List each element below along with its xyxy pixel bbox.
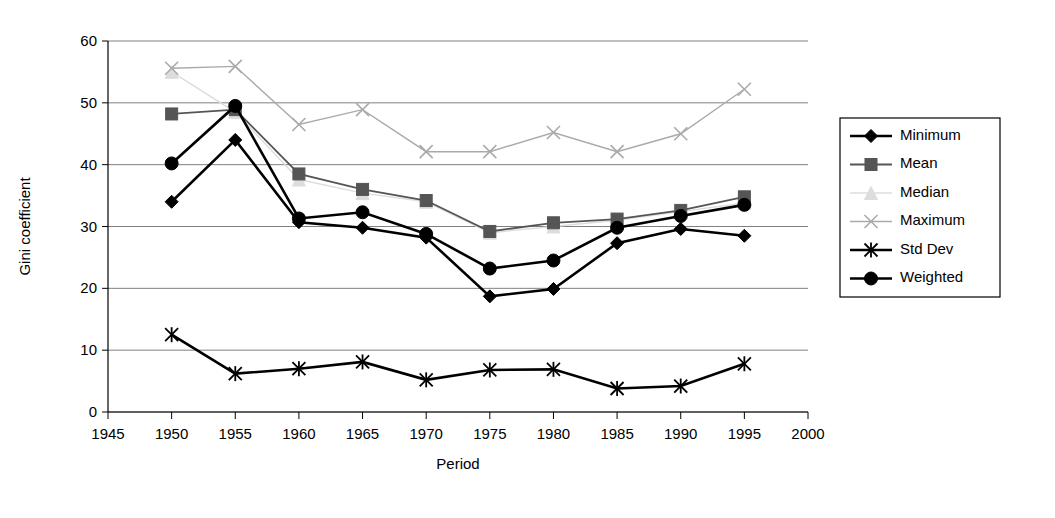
datapoint-1950	[165, 157, 178, 170]
marker-circle	[674, 209, 687, 222]
ytick-label-40: 40	[80, 156, 97, 173]
ytick-label-60: 60	[80, 32, 97, 49]
marker-diamond	[738, 229, 751, 242]
xtick-label-1950: 1950	[155, 425, 188, 442]
datapoint-1960	[292, 212, 305, 225]
datapoint-1965	[356, 221, 369, 234]
series-line	[172, 335, 745, 389]
marker-circle	[738, 198, 751, 211]
datapoint-1995	[738, 83, 751, 96]
series-maximum	[165, 60, 751, 158]
series-line	[172, 106, 745, 269]
legend-marker	[865, 159, 877, 171]
xtick-label-1970: 1970	[409, 425, 442, 442]
datapoint-1980	[547, 126, 560, 139]
datapoint-1965	[356, 206, 369, 219]
marker-square	[484, 225, 496, 237]
grid-lines: 0102030405060	[80, 32, 808, 420]
legend: MinimumMeanMedianMaximumStd DevWeighted	[840, 118, 1000, 297]
y-axis-title: Gini coefficient	[16, 177, 33, 276]
marker-circle	[611, 221, 624, 234]
xtick-label-1975: 1975	[473, 425, 506, 442]
xtick-label-1945: 1945	[91, 425, 124, 442]
marker-circle	[420, 227, 433, 240]
datapoint-1965	[356, 103, 369, 116]
xtick-label-1955: 1955	[219, 425, 252, 442]
datapoint-1985	[611, 145, 624, 158]
xtick-label-1995: 1995	[728, 425, 761, 442]
datapoint-1970	[420, 227, 433, 240]
ytick-label-50: 50	[80, 94, 97, 111]
legend-label: Std Dev	[900, 240, 954, 257]
datapoint-1965	[357, 183, 369, 195]
ytick-label-20: 20	[80, 279, 97, 296]
datapoint-1980	[547, 217, 559, 229]
datapoint-1960	[292, 118, 305, 131]
gini-coefficient-line-chart: 0102030405060194519501955196019651970197…	[0, 0, 1055, 518]
datapoint-1950	[166, 108, 178, 120]
datapoint-1990	[674, 127, 687, 140]
series-group	[165, 60, 751, 396]
datapoint-1975	[484, 225, 496, 237]
xtick-label-1965: 1965	[346, 425, 379, 442]
x-ticks: 1945195019551960196519701975198019851990…	[91, 412, 824, 442]
datapoint-1985	[611, 221, 624, 234]
marker-diamond	[674, 222, 687, 235]
datapoint-1980	[547, 254, 560, 267]
datapoint-1950	[165, 327, 178, 342]
datapoint-1995	[738, 229, 751, 242]
series-std-dev	[165, 327, 751, 396]
xtick-label-2000: 2000	[791, 425, 824, 442]
marker-square	[357, 183, 369, 195]
datapoint-1995	[738, 356, 751, 371]
ytick-label-10: 10	[80, 341, 97, 358]
legend-label: Maximum	[900, 211, 965, 228]
legend-label: Median	[900, 183, 949, 200]
series-line	[172, 140, 745, 296]
legend-label: Weighted	[900, 268, 963, 285]
datapoint-1995	[738, 198, 751, 211]
x-axis-title: Period	[436, 455, 479, 472]
marker-circle	[165, 157, 178, 170]
datapoint-1990	[674, 209, 687, 222]
ytick-label-0: 0	[89, 403, 97, 420]
xtick-label-1990: 1990	[664, 425, 697, 442]
datapoint-1955	[229, 99, 242, 112]
series-line	[172, 66, 745, 151]
ytick-label-30: 30	[80, 218, 97, 235]
marker-square	[547, 217, 559, 229]
legend-label: Minimum	[900, 126, 961, 143]
datapoint-1970	[420, 195, 432, 207]
datapoint-1960	[293, 168, 305, 180]
marker-circle	[356, 206, 369, 219]
marker-diamond	[356, 221, 369, 234]
marker-square	[166, 108, 178, 120]
marker-circle	[865, 272, 878, 285]
legend-marker	[865, 272, 878, 285]
series-weighted	[165, 99, 751, 275]
marker-circle	[547, 254, 560, 267]
marker-square	[293, 168, 305, 180]
marker-circle	[229, 99, 242, 112]
marker-circle	[483, 262, 496, 275]
marker-square	[420, 195, 432, 207]
legend-label: Mean	[900, 154, 938, 171]
chart-root: 0102030405060194519501955196019651970197…	[0, 0, 1055, 518]
marker-circle	[292, 212, 305, 225]
xtick-label-1985: 1985	[600, 425, 633, 442]
datapoint-1990	[674, 222, 687, 235]
xtick-label-1960: 1960	[282, 425, 315, 442]
xtick-label-1980: 1980	[537, 425, 570, 442]
marker-square	[865, 159, 877, 171]
datapoint-1975	[483, 262, 496, 275]
